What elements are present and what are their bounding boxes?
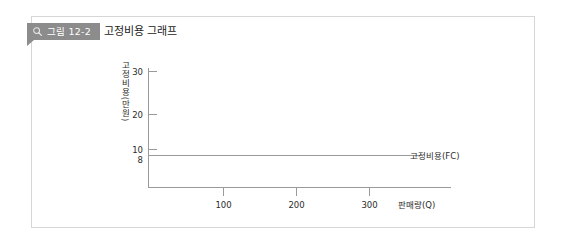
figure-title: 고정비용 그래프 <box>104 23 178 40</box>
figure-number-label: 그림 12-2 <box>47 27 91 37</box>
fixed-cost-line-label: 고정비용(FC) <box>410 151 459 161</box>
y-tick-label-10: 10 <box>132 145 143 155</box>
y-tick-label-20: 20 <box>132 110 143 120</box>
x-tick-label-200: 200 <box>288 200 304 210</box>
y-tick-label-8: 8 <box>138 155 143 165</box>
figure-caption-badge: 그림 12-2 <box>27 23 100 40</box>
badge-tail <box>27 40 34 46</box>
fixed-cost-line-chart: 30 20 10 8 고정비용(만원) 100 200 300 판매량(Q) 고… <box>31 16 535 228</box>
magnifier-icon <box>32 26 43 37</box>
x-axis-title: 판매량(Q) <box>398 200 435 210</box>
y-axis-title: 고정비용(만원) <box>120 61 130 122</box>
y-tick-label-30: 30 <box>132 67 143 77</box>
chart-plot-area: 30 20 10 8 고정비용(만원) 100 200 300 판매량(Q) 고… <box>31 16 535 228</box>
x-tick-label-100: 100 <box>215 200 231 210</box>
x-tick-label-300: 300 <box>361 200 377 210</box>
